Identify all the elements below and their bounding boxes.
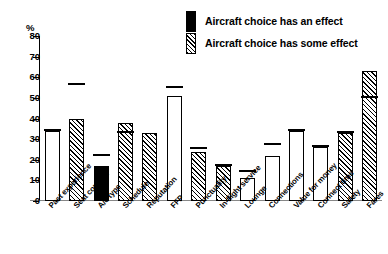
- y-axis-tick-mark: [33, 180, 39, 181]
- y-axis-tick: 80: [0, 36, 40, 37]
- y-axis-tick-mark: [33, 98, 39, 99]
- bar-marker: [190, 147, 207, 149]
- x-axis-labels: Past experienceSeat comfortA/c typeSched…: [0, 200, 388, 254]
- bar-marker: [288, 129, 305, 131]
- y-axis-tick-mark: [33, 77, 39, 78]
- bar: [45, 131, 60, 201]
- y-axis-tick: 50: [0, 98, 40, 99]
- legend-label-effect: Aircraft choice has an effect: [205, 15, 343, 27]
- bar-marker: [93, 154, 110, 156]
- bar-marker: [312, 145, 329, 147]
- bar-marker: [361, 96, 378, 98]
- y-axis-tick: 10: [0, 180, 40, 181]
- bar-marker: [44, 129, 61, 131]
- y-axis-tick-mark: [33, 139, 39, 140]
- y-axis-tick: 70: [0, 57, 40, 58]
- y-axis-tick: 60: [0, 77, 40, 78]
- legend-item-effect: Aircraft choice has an effect: [186, 10, 386, 32]
- bar-chart: Aircraft choice has an effect Aircraft c…: [0, 0, 388, 254]
- y-axis-tick: 30: [0, 139, 40, 140]
- bar-marker: [68, 83, 85, 85]
- solid-black-bar-icon: [186, 11, 196, 32]
- y-axis-tick: 20: [0, 160, 40, 161]
- bar: [362, 71, 377, 201]
- y-axis-tick-mark: [33, 57, 39, 58]
- y-axis-tick-mark: [33, 119, 39, 120]
- bar-marker: [166, 86, 183, 88]
- y-axis-tick: 40: [0, 119, 40, 120]
- bar-marker: [264, 143, 281, 145]
- bar-marker: [215, 164, 232, 166]
- bar-marker: [337, 131, 354, 133]
- bar-marker: [117, 131, 134, 133]
- y-axis-tick-mark: [33, 160, 39, 161]
- plot-area: [40, 36, 382, 201]
- y-axis-tick-mark: [33, 36, 39, 37]
